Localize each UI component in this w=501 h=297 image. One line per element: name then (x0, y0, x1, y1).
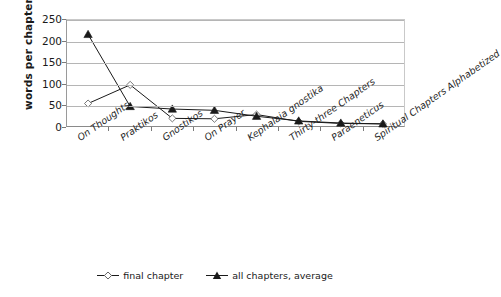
x-axis-category-label: On Prayer (202, 107, 247, 143)
x-axis-category-label: Gnostikos (160, 107, 205, 143)
x-axis-tick-mark (193, 127, 194, 131)
open-diamond-marker-icon (96, 270, 120, 281)
legend-label: all chapters, average (232, 270, 333, 281)
chart-legend: final chapterall chapters, average (0, 270, 429, 281)
x-axis-category-label: Kephalaia gnostika (245, 82, 325, 143)
x-axis-tick-mark (320, 127, 321, 131)
y-axis-tick-mark (62, 41, 66, 42)
legend-item-2[interactable]: all chapters, average (205, 270, 333, 281)
y-axis-tick-mark (62, 127, 66, 128)
legend-item-1[interactable]: final chapter (96, 270, 183, 281)
x-axis-tick-mark (236, 127, 237, 131)
x-axis-tick-mark (108, 127, 109, 131)
y-axis-tick-mark (62, 19, 66, 20)
y-axis-tick-mark (62, 105, 66, 106)
x-axis-tick-mark (363, 127, 364, 131)
filled-triangle-marker-icon (205, 270, 229, 281)
x-axis-tick-mark (151, 127, 152, 131)
x-axis-category-label: Praktikos (118, 109, 160, 143)
x-axis-tick-mark (278, 127, 279, 131)
legend-label: final chapter (123, 270, 183, 281)
y-axis-tick-mark (62, 62, 66, 63)
x-axis-category-label: Spiritual Chapters Alphabetized (372, 48, 501, 143)
y-axis-tick-mark (62, 84, 66, 85)
